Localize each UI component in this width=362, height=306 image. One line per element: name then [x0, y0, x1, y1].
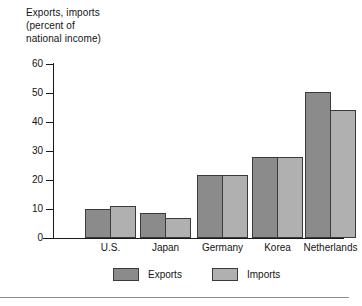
y-axis-tick [46, 93, 53, 94]
bar-group [252, 64, 303, 238]
bar-imports [222, 175, 248, 238]
bar-imports [110, 206, 136, 238]
y-axis-tick-label: 40 [19, 117, 43, 127]
legend-item: Exports [113, 268, 182, 281]
x-axis-label: Netherlands [287, 242, 362, 253]
bar-imports [330, 110, 356, 238]
bar-exports [305, 92, 331, 238]
bar-group [197, 64, 248, 238]
y-axis-tick [46, 64, 53, 65]
chart-legend: ExportsImports [0, 268, 349, 288]
y-axis-tick [46, 180, 53, 181]
y-axis-tick-label: 30 [19, 146, 43, 156]
legend-swatch-imports [212, 268, 238, 281]
bar-imports [165, 218, 191, 238]
bar-group [140, 64, 191, 238]
y-axis-tick-label: 0 [19, 233, 43, 243]
y-axis-tick-label: 60 [19, 59, 43, 69]
legend-label: Exports [148, 269, 182, 280]
chart-title: Exports, imports (percent of national in… [26, 6, 101, 45]
bottom-divider-rule [0, 297, 349, 298]
bar-group [85, 64, 136, 238]
bar-imports [277, 157, 303, 238]
plot-area [53, 64, 344, 238]
y-axis-tick [46, 209, 53, 210]
legend-item: Imports [212, 268, 280, 281]
bar-group [305, 64, 356, 238]
x-axis-line [43, 238, 344, 239]
bar-exports [85, 209, 111, 238]
y-axis-tick [46, 238, 53, 239]
bar-exports [197, 175, 223, 238]
bar-exports [140, 213, 166, 238]
legend-swatch-exports [113, 268, 139, 281]
y-axis-tick-label: 20 [19, 175, 43, 185]
y-axis-tick [46, 151, 53, 152]
y-axis-tick-label: 10 [19, 204, 43, 214]
bar-exports [252, 157, 278, 238]
y-axis-tick-label: 50 [19, 88, 43, 98]
y-axis-tick [46, 122, 53, 123]
legend-label: Imports [247, 269, 280, 280]
